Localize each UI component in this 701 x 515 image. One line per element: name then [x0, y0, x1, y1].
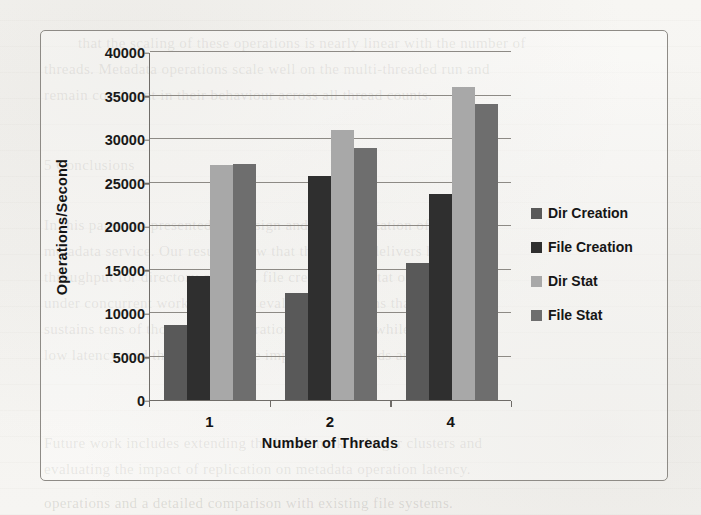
y-axis-title-label: Operations/Second	[54, 159, 70, 295]
y-axis-tick-label: 35000	[105, 89, 145, 105]
bar[interactable]	[452, 87, 475, 400]
bar-group	[271, 53, 392, 400]
y-axis-title: Operations/Second	[47, 53, 77, 401]
legend-label: File Creation	[548, 239, 633, 255]
y-axis-tick-label: 30000	[105, 132, 145, 148]
y-axis-tick-label: 15000	[105, 263, 145, 279]
x-axis-tick-mark	[149, 401, 150, 407]
y-axis-tick-label: 10000	[105, 306, 145, 322]
bar[interactable]	[354, 148, 377, 400]
bar[interactable]	[429, 194, 452, 400]
legend-label: Dir Creation	[548, 205, 628, 221]
legend-swatch-icon	[531, 208, 542, 219]
x-axis-title: Number of Threads	[149, 435, 511, 451]
bar-group	[391, 53, 512, 400]
legend-swatch-icon	[531, 242, 542, 253]
legend-item[interactable]: Dir Stat	[531, 264, 661, 298]
bar[interactable]	[406, 263, 429, 400]
bar[interactable]	[308, 176, 331, 400]
legend-label: Dir Stat	[548, 273, 598, 289]
chart-frame: Operations/Second 0500010000150002000025…	[40, 30, 668, 481]
x-axis-tick-mark	[390, 401, 391, 407]
bar-group	[150, 53, 271, 400]
y-axis-tick-labels: 0500010000150002000025000300003500040000	[85, 53, 145, 401]
x-axis-tick-mark	[511, 401, 512, 407]
x-axis-tick-mark	[270, 401, 271, 407]
bar[interactable]	[233, 164, 256, 400]
bar[interactable]	[210, 165, 233, 400]
bar[interactable]	[475, 104, 498, 400]
bar[interactable]	[187, 276, 210, 400]
legend-item[interactable]: Dir Creation	[531, 196, 661, 230]
x-axis-tick-label: 4	[446, 413, 454, 430]
y-axis-tick-label: 20000	[105, 219, 145, 235]
legend-item[interactable]: File Creation	[531, 230, 661, 264]
x-axis-tick-label: 2	[326, 413, 334, 430]
legend-item[interactable]: File Stat	[531, 298, 661, 332]
bar[interactable]	[285, 293, 308, 400]
ghost-text-line: operations and a detailed comparison wit…	[44, 490, 453, 515]
gridline	[150, 51, 511, 52]
legend-swatch-icon	[531, 310, 542, 321]
legend-label: File Stat	[548, 307, 602, 323]
x-axis-tick-label: 1	[205, 413, 213, 430]
y-axis-tick-label: 40000	[105, 45, 145, 61]
chart-legend: Dir CreationFile CreationDir StatFile St…	[531, 196, 661, 332]
y-axis-tick-label: 25000	[105, 176, 145, 192]
plot-wrap	[149, 53, 511, 401]
bar[interactable]	[164, 325, 187, 400]
legend-swatch-icon	[531, 276, 542, 287]
plot-area	[149, 53, 511, 401]
y-axis-tick-label: 5000	[113, 350, 145, 366]
bar[interactable]	[331, 130, 354, 400]
